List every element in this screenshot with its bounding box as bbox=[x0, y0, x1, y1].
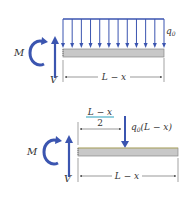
beam-diagram: q0 M V L − x L − x 2 q0(L − x) bbox=[0, 0, 187, 199]
load-arrowhead-icon bbox=[89, 43, 93, 48]
shear-arrowhead-icon bbox=[51, 36, 59, 44]
length-dimension-label: L − x bbox=[114, 171, 139, 181]
load-arrowhead-icon bbox=[134, 43, 138, 48]
top-free-body-diagram: q0 M V L − x bbox=[13, 19, 176, 85]
shear-arrowhead-icon bbox=[65, 135, 73, 143]
length-dimension-label: L − x bbox=[101, 72, 126, 82]
load-arrowhead-icon bbox=[125, 43, 129, 48]
fraction-denominator: 2 bbox=[97, 118, 103, 128]
moment-arrowhead-icon bbox=[41, 37, 48, 45]
moment-label: M bbox=[13, 47, 25, 58]
load-arrowhead-icon bbox=[107, 43, 111, 48]
load-arrowhead-icon bbox=[144, 43, 148, 48]
beam bbox=[63, 49, 164, 57]
resultant-arrowhead-icon bbox=[121, 141, 129, 148]
load-arrowhead-icon bbox=[79, 43, 83, 48]
distributed-load bbox=[61, 19, 166, 48]
load-intensity-label: q0 bbox=[166, 26, 176, 37]
beam bbox=[78, 148, 178, 156]
load-arrowhead-icon bbox=[98, 43, 102, 48]
shear-label: V bbox=[64, 173, 73, 184]
load-arrowhead-icon bbox=[116, 43, 120, 48]
fraction-numerator: L − x bbox=[87, 107, 112, 117]
moment-arrowhead-icon bbox=[55, 136, 62, 144]
load-arrowhead-icon bbox=[70, 43, 74, 48]
resultant-force-label: q0(L − x) bbox=[131, 122, 172, 133]
load-arrowhead-icon bbox=[153, 43, 157, 48]
moment-label: M bbox=[26, 146, 38, 157]
load-arrowhead-icon bbox=[61, 43, 65, 48]
bottom-free-body-diagram: L − x 2 q0(L − x) M V L − x bbox=[26, 107, 178, 184]
shear-label: V bbox=[50, 74, 59, 85]
load-arrowhead-icon bbox=[162, 43, 166, 48]
